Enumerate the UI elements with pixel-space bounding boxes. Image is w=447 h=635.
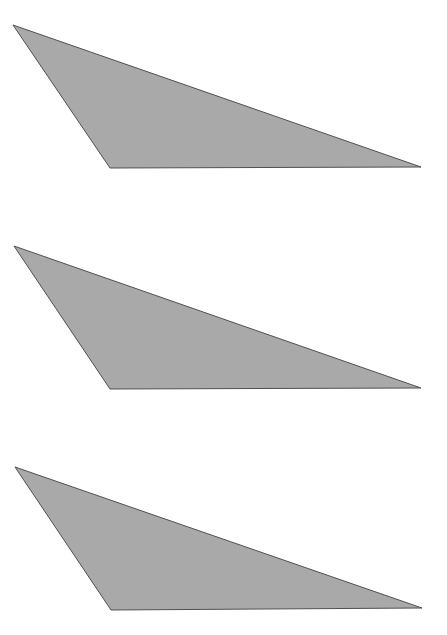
diagram-canvas [0, 0, 447, 635]
triangle-1 [13, 25, 421, 168]
triangle-2 [14, 246, 421, 389]
triangle-3 [15, 467, 422, 610]
